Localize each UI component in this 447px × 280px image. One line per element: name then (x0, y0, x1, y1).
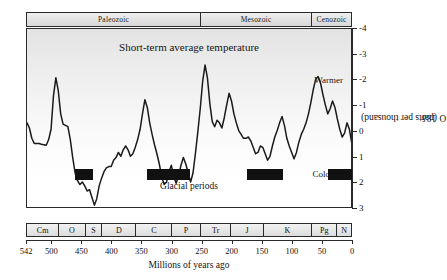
x-tick-6 (202, 240, 203, 244)
y-axis-label-text: O (parts per thousand) (361, 113, 446, 123)
period-bar: CmOSDCPTrJKPgN (26, 223, 352, 237)
x-tick-label-10: 50 (318, 246, 327, 256)
y-tick-4 (352, 131, 357, 132)
x-tick-label-11: 0 (350, 246, 354, 256)
y-tick-6 (352, 182, 357, 183)
period-cell-c: C (136, 224, 172, 236)
period-cell-k: K (264, 224, 312, 236)
y-axis-label: δ18O (parts per thousand) (386, 28, 402, 208)
x-tick-label-8: 150 (255, 246, 268, 256)
plot-area: Short-term average temperature Warmer Co… (26, 28, 352, 208)
y-tick-label-2: -2 (359, 74, 367, 84)
x-axis-label: Millions of years ago (26, 260, 352, 270)
x-tick-11 (352, 240, 353, 244)
period-cell-o: O (59, 224, 85, 236)
x-tick-label-5: 300 (165, 246, 178, 256)
glacial-bar-1 (147, 169, 189, 180)
period-cell-tr: Tr (201, 224, 232, 236)
period-cell-pg: Pg (312, 224, 337, 236)
x-tick-label-6: 250 (195, 246, 208, 256)
x-tick-label-4: 350 (135, 246, 148, 256)
x-tick-2 (81, 240, 82, 244)
y-tick-label-1: -3 (359, 49, 367, 59)
y-tick-label-7: 3 (359, 203, 364, 213)
y-tick-3 (352, 105, 357, 106)
glacial-bar-2 (247, 169, 283, 180)
y-tick-label-3: -1 (359, 100, 367, 110)
x-tick-label-9: 100 (285, 246, 298, 256)
era-cell-cenozoic: Cenozoic (312, 13, 351, 26)
y-tick-1 (352, 54, 357, 55)
x-axis-line (26, 240, 353, 241)
y-tick-0 (352, 28, 357, 29)
period-cell-j: J (231, 224, 263, 236)
x-tick-5 (172, 240, 173, 244)
x-tick-4 (141, 240, 142, 244)
x-tick-9 (292, 240, 293, 244)
y-tick-label-0: -4 (359, 23, 367, 33)
x-tick-10 (322, 240, 323, 244)
x-tick-label-1: 500 (45, 246, 58, 256)
x-tick-1 (51, 240, 52, 244)
period-cell-n: N (337, 224, 351, 236)
x-tick-label-2: 450 (75, 246, 88, 256)
x-tick-7 (232, 240, 233, 244)
x-tick-label-3: 400 (105, 246, 118, 256)
y-tick-5 (352, 157, 357, 158)
x-tick-label-0: 542 (20, 246, 33, 256)
y-tick-2 (352, 79, 357, 80)
temperature-curve (27, 29, 352, 208)
x-tick-0 (26, 240, 27, 244)
y-tick-label-5: 1 (359, 152, 364, 162)
x-tick-8 (262, 240, 263, 244)
y-tick-label-4: 0 (359, 126, 364, 136)
x-tick-3 (111, 240, 112, 244)
era-cell-mesozoic: Mesozoic (201, 13, 312, 26)
y-tick-label-6: 2 (359, 177, 364, 187)
temperature-curve-path (27, 65, 352, 205)
period-cell-p: P (172, 224, 201, 236)
glacial-bar-0 (75, 169, 93, 180)
y-tick-7 (352, 208, 357, 209)
period-cell-s: S (86, 224, 103, 236)
era-bar: PaleozoicMesozoicCenozoic (26, 12, 352, 27)
glacial-bar-3 (328, 169, 352, 180)
era-cell-paleozoic: Paleozoic (27, 13, 201, 26)
period-cell-d: D (102, 224, 136, 236)
period-cell-cm: Cm (27, 224, 59, 236)
x-tick-label-7: 200 (225, 246, 238, 256)
